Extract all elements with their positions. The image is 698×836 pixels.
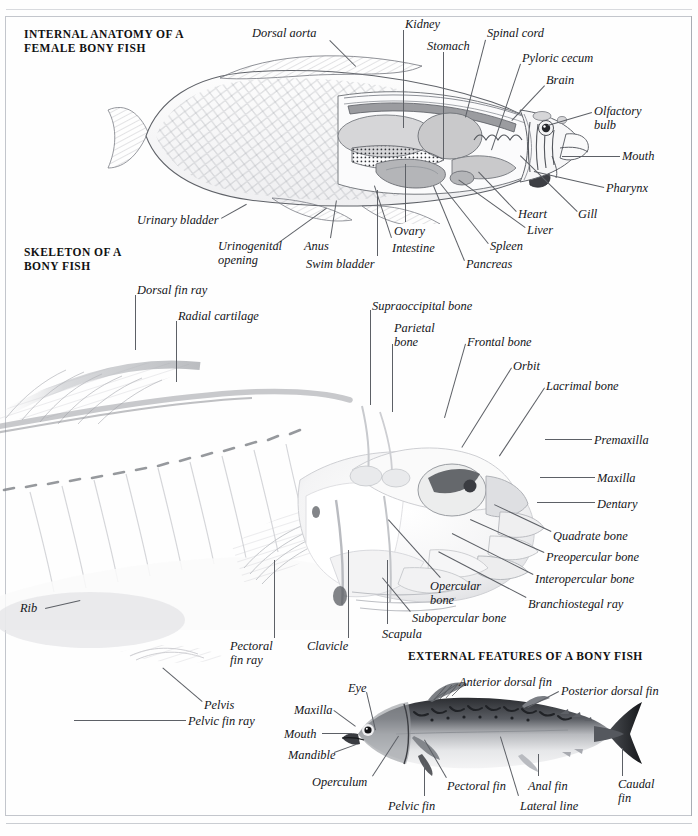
leader-line-clavicle (348, 550, 349, 638)
label-pelvic-fin-ray: Pelvic fin ray (188, 715, 255, 729)
label-dentary: Dentary (597, 498, 638, 512)
label-stomach: Stomach (427, 40, 470, 54)
leader-line-supraoccipital-bone (370, 310, 371, 405)
page-rule-top (6, 9, 692, 10)
label-frontal-bone: Frontal bone (467, 336, 532, 350)
label-mouth: Mouth (622, 150, 654, 164)
leader-line-pelvic-fin-ray (74, 720, 186, 721)
leader-line-kidney (403, 30, 404, 128)
leader-line-pelvic-fin (424, 762, 425, 796)
label-radial-cartilage: Radial cartilage (178, 310, 259, 324)
anatomy-plate-page: INTERNAL ANATOMY OF A FEMALE BONY FISH S… (0, 0, 698, 836)
leader-line-premaxilla (545, 439, 592, 440)
label-dorsal-aorta: Dorsal aorta (252, 27, 316, 41)
label-heart: Heart (518, 208, 547, 222)
label-brain: Brain (546, 74, 574, 88)
label-interopercular-bone: Interopercular bone (535, 573, 634, 587)
label-lacrimal-bone: Lacrimal bone (546, 380, 619, 394)
heading-skeleton: SKELETON OF A BONY FISH (24, 246, 122, 273)
label-pelvis: Pelvis (204, 699, 234, 713)
label-preopercular-bone: Preopercular bone (546, 551, 639, 565)
label-anal-fin: Anal fin (528, 780, 568, 794)
leader-line-maxilla (540, 477, 595, 478)
label-opercular-bone: Opercular bone (430, 580, 481, 607)
label-swim-bladder: Swim bladder (306, 258, 375, 272)
label-liver: Liver (527, 224, 553, 238)
label-parietal-bone: Parietal bone (394, 322, 435, 349)
leader-line-pectoral-fin-ray (274, 560, 275, 638)
label-gill: Gill (578, 208, 597, 222)
label-urinary-bladder: Urinary bladder (137, 214, 219, 228)
label-clavicle: Clavicle (307, 640, 348, 654)
label-mandible: Mandible (288, 749, 336, 763)
label-scapula: Scapula (382, 628, 422, 642)
label-posterior-dorsal-fin: Posterior dorsal fin (561, 685, 659, 699)
label-urinogenital-opening: Urinogenital opening (218, 240, 282, 267)
page-frame-right-edge (691, 16, 692, 816)
label-spleen: Spleen (490, 240, 523, 254)
label-pectoral-fin: Pectoral fin (447, 780, 506, 794)
label-maxilla: Maxilla (597, 472, 636, 486)
leader-line-mouth (562, 156, 620, 157)
label-anterior-dorsal-fin: Anterior dorsal fin (459, 676, 552, 690)
label-ovary: Ovary (394, 225, 425, 239)
label-quadrate-bone: Quadrate bone (553, 530, 628, 544)
leader-line-radial-cartilage (176, 321, 177, 382)
leader-line-swim-bladder (377, 190, 378, 256)
label-dorsal-fin-ray: Dorsal fin ray (137, 284, 207, 298)
label-caudal-fin: Caudal fin (618, 778, 655, 805)
label-anus: Anus (304, 240, 329, 254)
label-subopercular-bone: Subopercular bone (412, 612, 506, 626)
leader-line-anal-fin (538, 754, 539, 776)
label-intestine: Intestine (392, 242, 435, 256)
leader-line-scapula (387, 560, 388, 624)
label-orbit: Orbit (513, 360, 540, 374)
label-spinal-cord: Spinal cord (487, 27, 544, 41)
label-supraoccipital-bone: Supraoccipital bone (372, 300, 472, 314)
label-premaxilla: Premaxilla (594, 434, 649, 448)
label-pancreas: Pancreas (466, 258, 512, 272)
leader-line-mouth (322, 733, 352, 734)
label-rib: Rib (20, 602, 37, 616)
leader-line-dentary (537, 502, 595, 503)
label-operculum: Operculum (312, 776, 367, 790)
label-lateral-line: Lateral line (520, 800, 578, 814)
label-pelvic-fin: Pelvic fin (388, 800, 435, 814)
leader-line-ovary (405, 164, 406, 222)
label-pharynx: Pharynx (606, 182, 648, 196)
label-mouth: Mouth (284, 728, 316, 742)
leader-line-dorsal-fin-ray (135, 295, 136, 350)
heading-internal-anatomy: INTERNAL ANATOMY OF A FEMALE BONY FISH (24, 28, 184, 55)
label-eye: Eye (348, 682, 367, 696)
leader-line-caudal-fin (622, 748, 623, 776)
label-pectoral-fin-ray: Pectoral fin ray (230, 640, 273, 667)
leader-line-parietal-bone (392, 344, 393, 412)
label-branchiostegal-ray: Branchiostegal ray (528, 598, 623, 612)
label-pyloric-cecum: Pyloric cecum (522, 52, 593, 66)
leader-line-stomach (443, 52, 444, 160)
heading-external-features: EXTERNAL FEATURES OF A BONY FISH (408, 650, 643, 664)
page-rule-bottom (6, 823, 692, 824)
label-olfactory-bulb: Olfactory bulb (594, 105, 642, 132)
label-kidney: Kidney (405, 18, 440, 32)
label-maxilla: Maxilla (294, 704, 333, 718)
